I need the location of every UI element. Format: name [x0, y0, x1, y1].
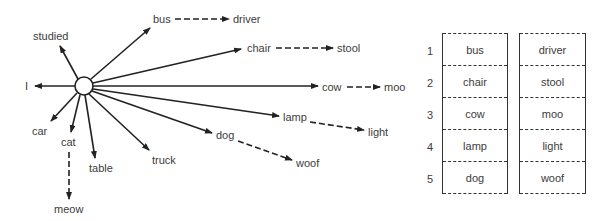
word-cow: cow — [322, 81, 342, 93]
stimulus-cell: lamp — [443, 129, 507, 161]
link-lamp — [93, 89, 279, 116]
word-driver: driver — [233, 13, 261, 25]
row-number: 2 — [425, 77, 435, 89]
response-cell: driver — [520, 33, 585, 65]
word-meow: meow — [54, 203, 83, 215]
word-lamp: lamp — [283, 111, 307, 123]
link-car — [51, 93, 77, 121]
word-car: car — [32, 125, 47, 137]
stimulus-cell: dog — [443, 161, 507, 194]
stimulus-column: bus chair cow lamp dog — [442, 33, 508, 194]
word-chair: chair — [247, 42, 271, 54]
row-number: 4 — [425, 141, 435, 153]
stimulus-cell: bus — [443, 33, 507, 65]
word-table: table — [89, 162, 113, 174]
link-table — [85, 95, 95, 158]
stimulus-cell: cow — [443, 97, 507, 129]
link-truck — [89, 94, 149, 150]
link-studied — [60, 46, 78, 79]
word-I: I — [25, 80, 28, 92]
dashed-links — [69, 19, 380, 199]
stimulus-cell: chair — [443, 65, 507, 97]
row-number: 3 — [425, 109, 435, 121]
response-cell: woof — [520, 161, 585, 194]
word-moo: moo — [384, 81, 405, 93]
word-stool: stool — [337, 42, 360, 54]
hub-node — [75, 77, 93, 95]
word-dog: dog — [216, 129, 234, 141]
link-chair — [93, 49, 241, 83]
word-studied: studied — [33, 30, 68, 42]
word-truck: truck — [152, 154, 176, 166]
pair-dog-woof — [238, 141, 292, 160]
pair-lamp-light — [310, 122, 364, 130]
word-woof: woof — [296, 157, 319, 169]
word-bus: bus — [153, 13, 171, 25]
response-cell: stool — [520, 65, 585, 97]
word-light: light — [368, 126, 388, 138]
response-cell: moo — [520, 97, 585, 129]
word-cat: cat — [61, 136, 76, 148]
response-column: driver stool moo light woof — [519, 33, 586, 194]
link-cat — [71, 95, 80, 132]
row-number: 1 — [425, 45, 435, 57]
response-cell: light — [520, 129, 585, 161]
row-number: 5 — [425, 173, 435, 185]
